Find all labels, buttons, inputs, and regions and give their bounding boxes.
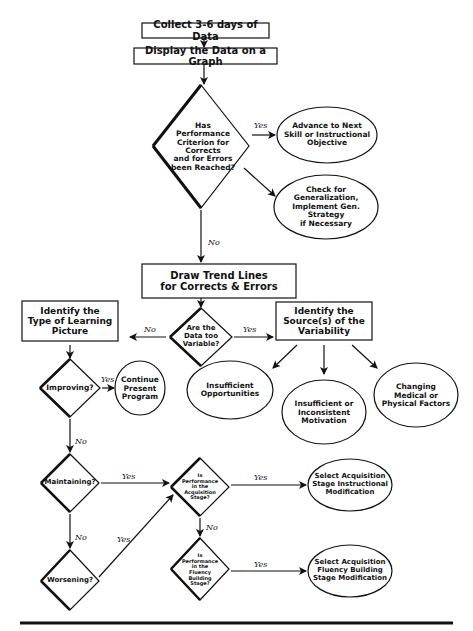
edge-label-criterion-yes: Yes xyxy=(254,121,267,130)
edge-label-fluency-yes: Yes xyxy=(254,560,267,569)
display-label: Display the Data on a Graph xyxy=(134,48,277,64)
improving-label: Improving? xyxy=(40,380,100,396)
edge-label-maintaining-yes: Yes xyxy=(122,472,135,481)
fluency-mod-label: Select Acquisition Fluency Building Stag… xyxy=(308,556,392,586)
source-label: Identify the Source(s) of the Variabilit… xyxy=(276,302,372,340)
advance-label: Advance to Next Skill or Instructional O… xyxy=(280,118,374,152)
worsening-label: Worsening? xyxy=(41,573,99,589)
acq-mod-label: Select Acquisition Stage Instructional M… xyxy=(308,470,392,500)
continue-label: Continue Present Program xyxy=(117,374,163,404)
motivation-label: Insufficient or Inconsistent Motivation xyxy=(284,396,364,430)
edge-label-acq-no: No xyxy=(206,523,218,532)
trend-label: Draw Trend Lines for Corrects & Errors xyxy=(142,264,296,298)
fluency-stage-label: Is Performance in the Fluency Building S… xyxy=(176,548,224,592)
edge-label-acq-yes: Yes xyxy=(254,473,267,482)
edge-label-improving-no: No xyxy=(75,437,87,446)
edge-label-criterion-no: No xyxy=(208,238,220,247)
collect-label: Collect 3-6 days of Data xyxy=(142,23,269,38)
edge-label-variable-no: No xyxy=(144,325,156,334)
generalization-label: Check for Generalization, Implement Gen.… xyxy=(276,185,376,229)
edge-label-maintaining-no: No xyxy=(75,533,87,542)
acq-stage-label: Is Performance in the Acquisition Stage? xyxy=(176,468,224,506)
insufficient-opp-label: Insufficient Opportunities xyxy=(190,378,270,402)
criterion-label: Has Performance Criterion for Corrects a… xyxy=(163,110,243,184)
edge-label-worsening-yes: Yes xyxy=(117,535,130,544)
medical-label: Changing Medical or Physical Factors xyxy=(376,380,456,412)
maintaining-label: Maintaining? xyxy=(41,475,99,491)
edge-label-variable-yes: Yes xyxy=(243,325,256,334)
learning-picture-label: Identify the Type of Learning Picture xyxy=(22,301,118,341)
edge-label-improving-yes: Yes xyxy=(101,375,114,384)
variable-label: Are the Data too Variable? xyxy=(176,321,226,353)
